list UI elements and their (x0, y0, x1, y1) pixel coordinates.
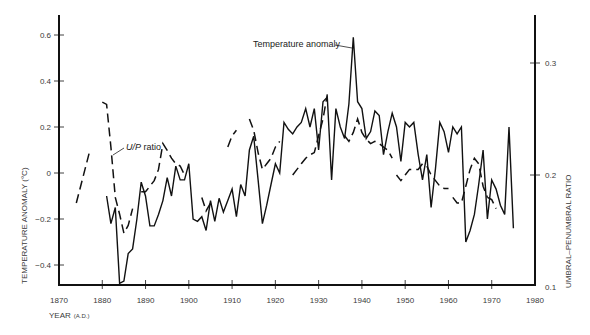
y-tick-label-left: 0.4 (40, 77, 52, 86)
up-annotation-label: U/P ratio (126, 142, 161, 152)
x-axis-title: YEAR(A.D.) (49, 311, 89, 320)
x-tick-label: 1890 (137, 296, 155, 305)
up-ratio-line (102, 102, 132, 233)
up-ratio-line (453, 158, 488, 203)
y-tick-label-left: 0.2 (40, 123, 52, 132)
chart-canvas: 1870188018901900191019201930194019501960… (0, 0, 590, 335)
up-ratio-line (345, 119, 393, 158)
up-ratio-line (228, 130, 237, 147)
annotations: Temperature anomaly U/P ratio (113, 39, 352, 155)
x-tick-label: 1940 (353, 296, 371, 305)
up-ratio-series (76, 94, 496, 233)
y-axis-title-right: UMBRAL–PENUMBRAL RATIO (564, 175, 573, 288)
y-tick-label-right: 0.2 (545, 171, 557, 180)
x-tick-label: 1930 (310, 296, 328, 305)
y-tick-label-left: −0.4 (35, 261, 51, 270)
x-tick-label: 1970 (483, 296, 501, 305)
x-tick-label: 1900 (180, 296, 198, 305)
axes: 1870188018901900191019201930194019501960… (35, 15, 556, 305)
up-ratio-line (76, 153, 89, 203)
temperature-line (107, 37, 514, 283)
x-tick-label: 1870 (50, 296, 68, 305)
x-tick-label: 1980 (526, 296, 544, 305)
temp-annotation-label: Temperature anomaly (253, 39, 341, 49)
y-axis-title-left: TEMPERATURE ANOMALY (°C) (20, 167, 29, 284)
y-tick-label-left: 0 (47, 169, 52, 178)
y-tick-label-left: 0.6 (40, 31, 52, 40)
y-tick-label-left: −0.2 (35, 215, 51, 224)
x-tick-label: 1960 (440, 296, 458, 305)
x-tick-label: 1920 (266, 296, 284, 305)
y-tick-label-right: 0.3 (545, 59, 557, 68)
up-annotation-text: U/P (126, 142, 141, 152)
up-annotation-leader (113, 148, 124, 155)
y-tick-label-right: 0.1 (545, 283, 557, 292)
temperature-series (107, 37, 514, 283)
x-axis-title-main: YEAR (49, 311, 71, 320)
x-tick-label: 1880 (93, 296, 111, 305)
x-tick-label: 1950 (396, 296, 414, 305)
x-tick-label: 1910 (223, 296, 241, 305)
x-axis-title-sub: (A.D.) (74, 313, 90, 319)
up-annotation-suffix: ratio (141, 142, 161, 152)
